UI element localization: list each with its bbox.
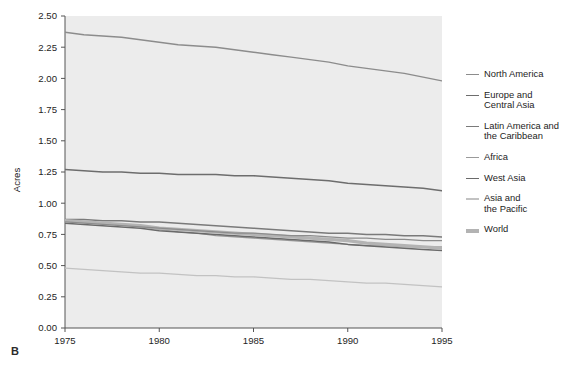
y-tick-label: 2.50 — [38, 10, 57, 21]
y-tick-label: 0.00 — [38, 322, 57, 333]
legend-item-label: Africa — [484, 152, 508, 163]
y-tick-label: 1.75 — [38, 104, 57, 115]
x-tick-label: 1975 — [54, 335, 75, 346]
legend-item-label: Asia and the Pacific — [484, 193, 527, 214]
y-tick-label: 1.50 — [38, 135, 57, 146]
legend-item-label: North America — [484, 69, 543, 80]
legend-swatch-icon — [466, 178, 479, 180]
x-axis-ticks: 19751980198519901995 — [54, 328, 452, 346]
y-tick-label: 0.50 — [38, 260, 57, 271]
legend-item[interactable]: World — [466, 224, 578, 235]
legend-item-label: Europe and Central Asia — [484, 90, 535, 111]
x-tick-label: 1990 — [337, 335, 358, 346]
legend-item-label: World — [484, 224, 508, 235]
x-tick-label: 1985 — [243, 335, 264, 346]
legend-item[interactable]: Latin America and the Caribbean — [466, 121, 578, 142]
y-tick-label: 0.75 — [38, 229, 57, 240]
legend-item-label: West Asia — [484, 173, 526, 184]
x-tick-label: 1980 — [149, 335, 170, 346]
legend-item[interactable]: Africa — [466, 152, 578, 163]
legend-item[interactable]: North America — [466, 69, 578, 80]
y-tick-label: 0.25 — [38, 291, 57, 302]
x-tick-label: 1995 — [431, 335, 452, 346]
y-tick-label: 2.25 — [38, 42, 57, 53]
legend-swatch-icon — [466, 74, 479, 75]
legend-item-label: Latin America and the Caribbean — [484, 121, 559, 142]
legend-swatch-icon — [466, 229, 479, 232]
chart-legend: North AmericaEurope and Central AsiaLati… — [466, 69, 578, 245]
legend-item[interactable]: Asia and the Pacific — [466, 193, 578, 214]
y-tick-label: 2.00 — [38, 73, 57, 84]
y-tick-label: 1.25 — [38, 166, 57, 177]
chart-figure: 0.000.250.500.751.001.251.501.752.002.25… — [0, 0, 579, 372]
legend-swatch-icon — [466, 95, 479, 97]
y-axis-ticks: 0.000.250.500.751.001.251.501.752.002.25… — [38, 10, 65, 333]
y-tick-label: 1.00 — [38, 198, 57, 209]
legend-item[interactable]: Europe and Central Asia — [466, 90, 578, 111]
legend-swatch-icon — [466, 126, 479, 128]
legend-swatch-icon — [466, 157, 479, 158]
y-axis-title: Acres — [11, 168, 22, 193]
legend-swatch-icon — [466, 198, 479, 199]
legend-item[interactable]: West Asia — [466, 173, 578, 184]
panel-label: B — [11, 345, 19, 357]
